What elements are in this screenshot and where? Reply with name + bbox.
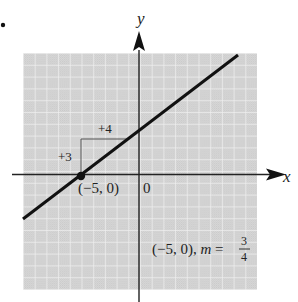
annotation-prefix: (−5, 0), <box>152 241 200 258</box>
x-axis-label: x <box>282 167 291 186</box>
annotation-text: (−5, 0), m = <box>152 241 224 258</box>
y-axis-label: y <box>135 9 145 28</box>
annotation-m: m <box>200 241 211 257</box>
bullet-marker <box>1 23 5 27</box>
rise-label: +3 <box>58 149 72 164</box>
point-marker <box>77 172 85 180</box>
y-axis-arrow-icon <box>133 31 145 51</box>
fraction-numerator: 3 <box>241 234 247 248</box>
coordinate-plane-figure: y x 0 (−5, 0) +3 +4 (−5, 0), m = 3 4 <box>0 0 298 302</box>
point-label: (−5, 0) <box>78 180 119 197</box>
fraction-denominator: 4 <box>241 250 247 264</box>
origin-label: 0 <box>143 180 151 196</box>
run-label: +4 <box>98 121 112 136</box>
annotation-equals: = <box>211 241 223 257</box>
